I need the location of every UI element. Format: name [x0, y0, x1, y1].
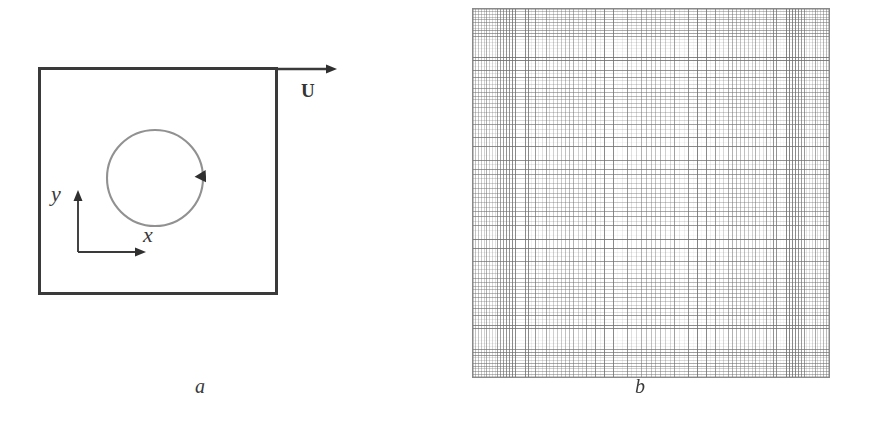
panel-a-schematic: U x y a: [0, 0, 430, 426]
panel-a-caption: a: [180, 375, 220, 398]
y-axis-label: y: [51, 181, 61, 207]
mesh-canvas: [473, 9, 829, 377]
x-axis-label: x: [143, 222, 153, 248]
panel-b-caption: b: [620, 375, 660, 398]
panel-b-mesh: b: [430, 0, 873, 426]
lid-velocity-label: U: [301, 80, 315, 102]
lid-velocity-arrow-icon: [276, 64, 338, 74]
computational-mesh: [472, 8, 830, 378]
figure-root: U x y a b: [0, 0, 873, 426]
